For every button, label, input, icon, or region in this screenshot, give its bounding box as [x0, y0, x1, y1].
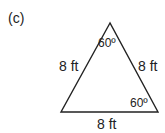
- side-left-label: 8 ft: [59, 59, 78, 73]
- angle-bottom-right-label: 60º: [130, 97, 148, 109]
- side-right-label: 8 ft: [138, 59, 157, 73]
- side-bottom-label: 8 ft: [97, 117, 116, 131]
- angle-top-label: 60º: [98, 37, 116, 49]
